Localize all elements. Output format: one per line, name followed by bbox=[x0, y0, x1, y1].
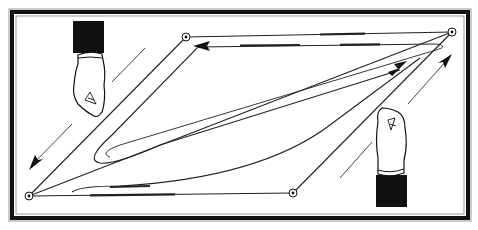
right-guide-arrow-icon bbox=[438, 54, 452, 68]
point-bottom-right bbox=[289, 189, 297, 197]
fold-diagram bbox=[0, 0, 478, 230]
point-top-left bbox=[182, 33, 190, 41]
left-hand-icon bbox=[73, 21, 105, 117]
right-edge bbox=[293, 32, 452, 193]
right-hand-icon bbox=[376, 108, 407, 207]
left-guide-arrow-icon bbox=[29, 155, 43, 170]
left-edge bbox=[29, 37, 186, 196]
top-edge bbox=[186, 32, 452, 37]
point-top-right bbox=[448, 28, 456, 36]
right-guide-line bbox=[408, 60, 447, 104]
left-guide-line bbox=[34, 124, 72, 163]
point-bottom-left bbox=[25, 192, 33, 200]
diagram-canvas bbox=[0, 0, 478, 230]
lower-curve bbox=[72, 58, 420, 192]
